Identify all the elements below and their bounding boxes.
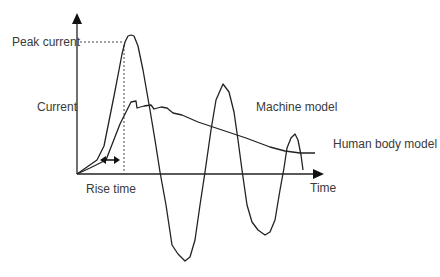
- rise-time-label: Rise time: [86, 182, 136, 196]
- peak-current-guide: [80, 42, 124, 174]
- x-axis: [77, 169, 324, 179]
- peak-current-label: Peak current: [12, 35, 80, 49]
- time-axis-label: Time: [310, 181, 336, 195]
- machine-model-label: Machine model: [256, 100, 337, 114]
- current-label: Current: [37, 100, 77, 114]
- human-body-model-label: Human body model: [333, 137, 437, 151]
- rise-time-arrow: [100, 156, 120, 164]
